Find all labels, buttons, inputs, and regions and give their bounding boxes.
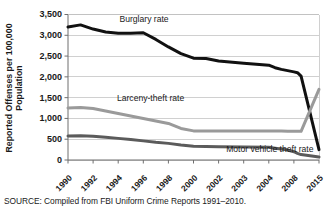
y-tick-label: 0 <box>57 155 62 165</box>
y-tick-label: 2,500 <box>39 51 62 61</box>
data-series <box>68 25 319 157</box>
series-line <box>68 89 319 131</box>
y-axis-ticks: 05001,0001,5002,0002,5003,0003,500 <box>39 9 68 165</box>
x-tick-label: 2008 <box>279 173 300 194</box>
series-label: Larceny-theft rate <box>117 93 185 103</box>
x-tick-label: 1992 <box>79 173 100 194</box>
x-tick-label: 1994 <box>104 173 125 194</box>
x-tick-label: 2015 <box>304 173 325 194</box>
y-axis-title-group: Reported Offenses per 100,000 Population <box>4 23 24 152</box>
chart-figure: Reported Offenses per 100,000 Population… <box>0 0 327 209</box>
y-tick-label: 2,000 <box>39 72 62 82</box>
source-note: SOURCE: Compiled from FBI Uniform Crime … <box>4 196 246 206</box>
x-tick-label: 2003 <box>229 173 250 194</box>
y-tick-label: 500 <box>47 134 62 144</box>
x-tick-label: 1998 <box>154 173 175 194</box>
line-chart: Reported Offenses per 100,000 Population… <box>0 0 327 209</box>
x-axis-ticks: 1990199219941996199820002002200320042008… <box>53 160 325 193</box>
y-tick-label: 1,000 <box>39 113 62 123</box>
series-label: Burglary rate <box>119 14 168 24</box>
x-tick-label: 1990 <box>53 173 74 194</box>
x-tick-label: 2002 <box>204 173 225 194</box>
y-tick-label: 3,000 <box>39 30 62 40</box>
y-axis-title-line2: Population <box>14 65 24 110</box>
x-tick-label: 1996 <box>129 173 150 194</box>
y-tick-label: 3,500 <box>39 9 62 19</box>
x-tick-label: 2000 <box>179 173 200 194</box>
y-axis-title-line1: Reported Offenses per 100,000 <box>4 23 14 152</box>
series-label: Motor vehicle theft rate <box>226 144 314 154</box>
y-tick-label: 1,500 <box>39 93 62 103</box>
x-tick-label: 2004 <box>254 173 275 194</box>
